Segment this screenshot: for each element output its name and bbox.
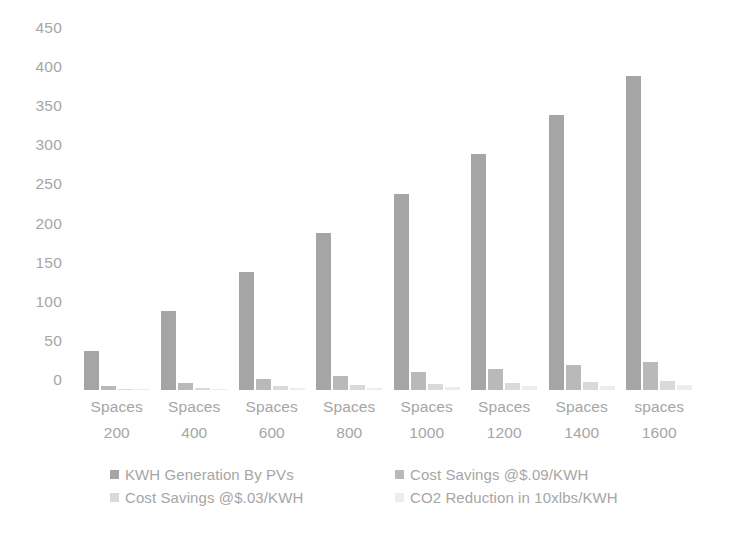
- bar: [471, 154, 486, 390]
- bar: [84, 351, 99, 390]
- bar: [505, 383, 520, 390]
- legend-swatch-icon: [110, 470, 119, 479]
- bar-group: [388, 38, 466, 390]
- legend-entry[interactable]: KWH Generation By PVs: [110, 466, 395, 483]
- bar-group: [543, 38, 621, 390]
- legend-label: KWH Generation By PVs: [125, 466, 294, 483]
- y-axis-tick-label: 200: [36, 215, 62, 233]
- y-axis-tick-label: 400: [36, 58, 62, 76]
- y-axis-tick-label: 250: [36, 175, 62, 193]
- x-axis-tick-label: Spaces1400: [543, 394, 621, 450]
- y-axis-tick-label: 0: [53, 371, 62, 389]
- bar: [626, 76, 641, 390]
- bar-group: [233, 38, 311, 390]
- bar-group: [156, 38, 234, 390]
- y-axis-tick-label: 50: [44, 332, 62, 350]
- bar-groups-container: [78, 38, 698, 390]
- bar: [411, 372, 426, 390]
- category-name: Spaces: [543, 394, 621, 420]
- bar: [195, 388, 210, 390]
- y-axis-tick-label: 300: [36, 136, 62, 154]
- legend-entry[interactable]: Cost Savings @$.03/KWH: [110, 489, 395, 506]
- bar: [488, 369, 503, 390]
- category-value: 1600: [621, 420, 699, 446]
- x-axis-tick-label: spaces1600: [621, 394, 699, 450]
- bar: [118, 389, 133, 390]
- bar: [178, 383, 193, 390]
- x-axis-tick-label: Spaces1200: [466, 394, 544, 450]
- bar: [316, 233, 331, 390]
- legend-entry[interactable]: CO2 Reduction in 10xlbs/KWH: [395, 489, 680, 506]
- bar: [600, 386, 615, 390]
- y-axis-tick-label: 450: [36, 19, 62, 37]
- bar: [350, 385, 365, 390]
- bar: [239, 272, 254, 390]
- bar: [394, 194, 409, 390]
- category-value: 1200: [466, 420, 544, 446]
- category-value: 600: [233, 420, 311, 446]
- category-name: Spaces: [466, 394, 544, 420]
- y-axis-tick-label: 150: [36, 254, 62, 272]
- x-axis-tick-label: Spaces600: [233, 394, 311, 450]
- x-axis-tick-label: Spaces1000: [388, 394, 466, 450]
- x-axis-categories: Spaces200Spaces400Spaces600Spaces800Spac…: [78, 394, 698, 450]
- legend-swatch-icon: [110, 493, 119, 502]
- legend-entry[interactable]: Cost Savings @$.09/KWH: [395, 466, 680, 483]
- y-axis-tick-label: 350: [36, 97, 62, 115]
- bar: [161, 311, 176, 390]
- category-name: Spaces: [311, 394, 389, 420]
- bar: [566, 365, 581, 390]
- category-value: 1000: [388, 420, 466, 446]
- chart-legend: KWH Generation By PVsCost Savings @$.09/…: [110, 466, 680, 506]
- bar: [549, 115, 564, 390]
- bar: [428, 384, 443, 390]
- bar: [643, 362, 658, 390]
- bar: [135, 389, 150, 390]
- bar: [445, 387, 460, 390]
- legend-swatch-icon: [395, 470, 404, 479]
- chart-figure: 450400350300250200150100500 Spaces200Spa…: [0, 0, 742, 535]
- category-value: 400: [156, 420, 234, 446]
- bar-group: [466, 38, 544, 390]
- x-axis-tick-label: Spaces200: [78, 394, 156, 450]
- legend-swatch-icon: [395, 493, 404, 502]
- category-name: Spaces: [156, 394, 234, 420]
- legend-label: Cost Savings @$.09/KWH: [410, 466, 588, 483]
- bar-group: [311, 38, 389, 390]
- category-name: spaces: [621, 394, 699, 420]
- bar: [522, 386, 537, 390]
- x-axis-tick-label: Spaces800: [311, 394, 389, 450]
- category-value: 200: [78, 420, 156, 446]
- bar-group: [78, 38, 156, 390]
- y-axis: 450400350300250200150100500: [0, 28, 70, 390]
- bar: [290, 388, 305, 390]
- bar: [273, 386, 288, 390]
- bar: [101, 386, 116, 390]
- y-axis-tick-label: 100: [36, 293, 62, 311]
- bar: [256, 379, 271, 390]
- bar-group: [621, 38, 699, 390]
- x-axis-tick-label: Spaces400: [156, 394, 234, 450]
- category-value: 800: [311, 420, 389, 446]
- bar: [212, 389, 227, 390]
- bar: [660, 381, 675, 390]
- bar: [367, 388, 382, 391]
- plot-area: [78, 38, 698, 390]
- legend-label: Cost Savings @$.03/KWH: [125, 489, 303, 506]
- category-value: 1400: [543, 420, 621, 446]
- bar: [333, 376, 348, 390]
- category-name: Spaces: [233, 394, 311, 420]
- legend-label: CO2 Reduction in 10xlbs/KWH: [410, 489, 618, 506]
- category-name: Spaces: [388, 394, 466, 420]
- category-name: Spaces: [78, 394, 156, 420]
- bar: [583, 382, 598, 390]
- bar: [677, 385, 692, 390]
